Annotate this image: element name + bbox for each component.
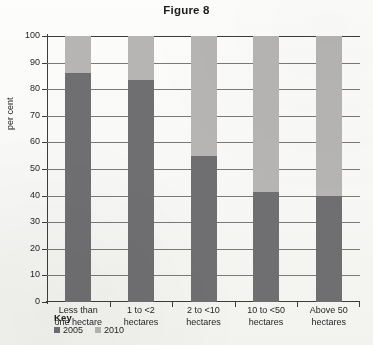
legend-label: 2010: [104, 325, 124, 335]
legend-label: 2005: [63, 325, 83, 335]
y-axis-tick-mark: [42, 222, 47, 223]
legend-item[interactable]: 2010: [95, 325, 124, 335]
y-axis-tick-label: 40: [0, 190, 40, 200]
y-axis-tick-mark: [42, 249, 47, 250]
y-axis-tick-label: 100: [0, 30, 40, 40]
y-axis-tick-labels: 1009080706050403020100: [0, 36, 40, 302]
legend-items: 20052010: [54, 325, 254, 335]
bar-segment-2005[interactable]: [65, 73, 91, 302]
y-axis-tick-label: 30: [0, 216, 40, 226]
bar-segment-2010[interactable]: [128, 36, 154, 80]
y-axis-tick-mark: [42, 275, 47, 276]
y-axis-tick-mark: [42, 89, 47, 90]
figure-8-chart: Figure 8 per cent 1009080706050403020100…: [0, 0, 373, 345]
bar-group[interactable]: [253, 36, 279, 302]
y-axis-tick-mark: [42, 36, 47, 37]
plot-inner: [47, 36, 360, 302]
chart-title: Figure 8: [0, 4, 373, 16]
legend-swatch-icon: [54, 327, 60, 333]
y-axis-tick-mark: [42, 196, 47, 197]
y-axis-tick-label: 90: [0, 57, 40, 67]
bar-segment-2010[interactable]: [191, 36, 217, 156]
y-axis-tick-mark: [42, 169, 47, 170]
y-axis-tick-label: 20: [0, 243, 40, 253]
bar-group[interactable]: [191, 36, 217, 302]
legend-title: Key: [54, 312, 254, 323]
bar-group[interactable]: [65, 36, 91, 302]
y-axis-tick-label: 60: [0, 136, 40, 146]
bar-segment-2005[interactable]: [316, 196, 342, 302]
y-axis-tick-label: 10: [0, 269, 40, 279]
x-axis-label-line: Above 50: [297, 305, 360, 317]
bar-group[interactable]: [316, 36, 342, 302]
bar-segment-2010[interactable]: [316, 36, 342, 196]
bar-segment-2005[interactable]: [128, 80, 154, 302]
y-axis-tick-mark: [42, 116, 47, 117]
legend-swatch-icon: [95, 327, 101, 333]
bar-segment-2010[interactable]: [65, 36, 91, 73]
bar-segment-2005[interactable]: [191, 156, 217, 302]
y-axis-tick-mark: [42, 142, 47, 143]
y-axis-tick-mark: [42, 302, 47, 303]
y-axis-tick-label: 80: [0, 83, 40, 93]
bar-group[interactable]: [128, 36, 154, 302]
x-axis-label-line: hectares: [297, 317, 360, 329]
bar-segment-2005[interactable]: [253, 192, 279, 302]
y-axis-tick-mark: [42, 63, 47, 64]
y-axis-tick-label: 70: [0, 110, 40, 120]
bar-segment-2010[interactable]: [253, 36, 279, 192]
legend: Key 20052010: [54, 312, 254, 335]
plot-area: [47, 36, 360, 302]
legend-item[interactable]: 2005: [54, 325, 83, 335]
y-axis-tick-label: 50: [0, 163, 40, 173]
y-axis-tick-label: 0: [0, 296, 40, 306]
x-axis-category-label: Above 50hectares: [297, 305, 360, 328]
